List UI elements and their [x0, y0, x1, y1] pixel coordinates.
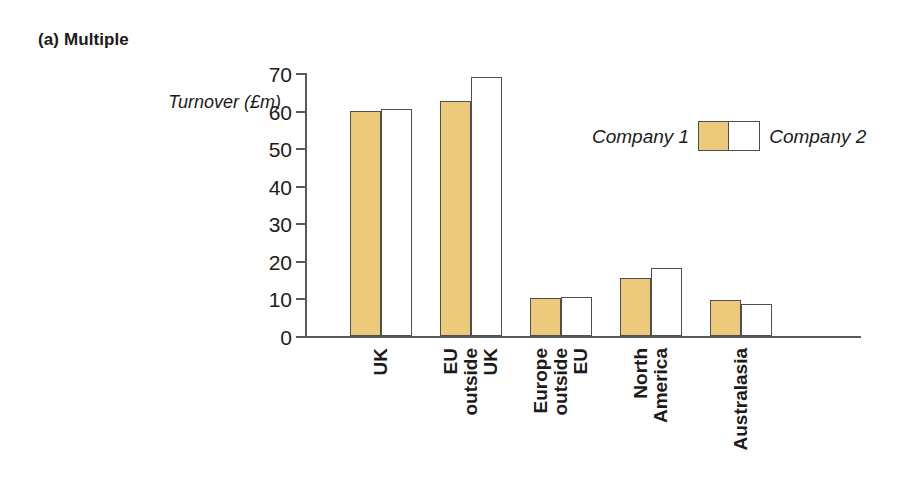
- bar: [350, 111, 381, 336]
- legend-swatch-company-2: [729, 121, 760, 151]
- legend-label-company-1: Company 1: [592, 127, 689, 146]
- category-label: Australasia: [731, 348, 751, 450]
- category-label-line: UK: [481, 348, 501, 416]
- category-label: NorthAmerica: [631, 348, 671, 423]
- y-tick-mark: [296, 186, 305, 188]
- legend-label-company-2: Company 2: [769, 127, 866, 146]
- y-tick-mark: [296, 73, 305, 75]
- y-tick-label: 20: [269, 251, 292, 272]
- bar: [620, 278, 651, 336]
- category-label-line: outside: [461, 348, 481, 416]
- category-label-line: North: [631, 348, 651, 423]
- bar: [381, 109, 412, 336]
- x-axis-line: [305, 336, 861, 338]
- bar: [561, 297, 592, 336]
- category-label: UK: [371, 348, 391, 375]
- bar: [651, 268, 682, 336]
- chart-legend: Company 1 Company 2: [592, 121, 866, 151]
- y-tick-mark: [296, 148, 305, 150]
- y-tick-label: 40: [269, 176, 292, 197]
- figure-multiple-bar-chart: (a) Multiple Turnover (£m) 0102030405060…: [0, 0, 919, 494]
- category-label: EuropeoutsideEU: [531, 348, 590, 416]
- category-label-line: EU: [441, 348, 461, 416]
- category-label-line: outside: [551, 348, 571, 416]
- bar: [471, 77, 502, 336]
- y-tick-label: 10: [269, 289, 292, 310]
- bar: [440, 101, 471, 336]
- category-label-line: EU: [571, 348, 591, 416]
- legend-swatches: [698, 121, 760, 151]
- category-label-line: America: [651, 348, 671, 423]
- bar: [741, 304, 772, 336]
- category-label-line: UK: [371, 348, 391, 375]
- y-tick-mark: [296, 223, 305, 225]
- y-tick-label: 60: [269, 101, 292, 122]
- category-label: EUoutsideUK: [441, 348, 500, 416]
- y-tick-mark: [296, 111, 305, 113]
- plot-area: 010203040506070 UKEUoutsideUKEuropeoutsi…: [305, 73, 861, 338]
- y-tick-label: 0: [280, 327, 292, 348]
- y-axis-title: Turnover (£m): [168, 92, 281, 113]
- y-tick-label: 70: [269, 64, 292, 85]
- chart-title: (a) Multiple: [38, 30, 129, 50]
- category-label-line: Europe: [531, 348, 551, 416]
- y-tick-label: 30: [269, 214, 292, 235]
- category-label-line: Australasia: [731, 348, 751, 450]
- bar: [530, 298, 561, 336]
- y-tick-mark: [296, 298, 305, 300]
- y-axis-line: [305, 73, 307, 338]
- y-tick-label: 50: [269, 139, 292, 160]
- legend-swatch-company-1: [698, 121, 729, 151]
- y-tick-mark: [296, 261, 305, 263]
- y-tick-mark: [296, 336, 305, 338]
- bar: [710, 300, 741, 336]
